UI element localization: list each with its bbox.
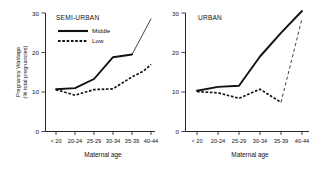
panel-title-urban: URBAN [198, 14, 222, 21]
y-tick-label-20-right: 20 [172, 49, 179, 56]
y-tick-label-10-left: 10 [32, 88, 39, 95]
legend-label-middle: Middle [92, 27, 111, 34]
y-tick-label-30-left: 30 [32, 10, 39, 17]
y-axis-title-line1-left: Pregnancy Wastage [15, 47, 21, 97]
y-tick-label-0-right: 0 [176, 128, 180, 135]
y-tick-label-10-right: 10 [172, 88, 179, 95]
series-middle-semi-urban [56, 55, 132, 90]
x-tick-label-3-right: 30-34 [253, 138, 267, 144]
x-axis-title-left: Maternal age [84, 151, 122, 159]
x-tick-label-0-right: < 20 [191, 138, 202, 144]
panel-semi-urban: 0 10 20 30 < 20 20-24 25-29 30-34 35-39 … [0, 0, 162, 171]
series-middle-urban [197, 11, 302, 91]
y-axis-title-line2-left: (% total pregnancies) [22, 45, 28, 98]
x-tick-label-5-left: 40-44 [144, 138, 158, 144]
y-tick-label-30-right: 30 [172, 10, 179, 17]
x-tick-label-4-left: 35-39 [125, 138, 139, 144]
x-tick-label-4-right: 35-39 [274, 138, 288, 144]
x-tick-label-2-left: 25-29 [87, 138, 101, 144]
plot-area-urban: 0 10 20 30 < 20 20-24 25-29 30-34 35-39 … [163, 0, 325, 171]
x-tick-label-2-right: 25-29 [232, 138, 246, 144]
plot-area-semi-urban: 0 10 20 30 < 20 20-24 25-29 30-34 35-39 … [0, 0, 162, 171]
panel-title-semi-urban: SEMI-URBAN [56, 14, 99, 21]
series-middle-semi-urban-extension [132, 19, 151, 55]
y-tick-label-20-left: 20 [32, 49, 39, 56]
y-axis-title-left: Pregnancy Wastage (% total pregnancies) [15, 45, 28, 98]
x-tick-label-5-right: 40-44 [295, 138, 309, 144]
x-tick-label-1-left: 20-24 [68, 138, 82, 144]
x-tick-label-3-left: 30-34 [106, 138, 120, 144]
x-tick-label-0-left: < 20 [50, 138, 61, 144]
legend-label-low: Low [92, 37, 104, 44]
x-tick-label-1-right: 20-24 [211, 138, 225, 144]
x-axis-title-right: Maternal age [231, 151, 269, 159]
series-low-urban-extension [281, 19, 302, 102]
panel-urban: 0 10 20 30 < 20 20-24 25-29 30-34 35-39 … [163, 0, 325, 171]
y-tick-label-0-left: 0 [36, 128, 40, 135]
series-low-urban [197, 89, 281, 102]
figure-two-panel-line-charts: 0 10 20 30 < 20 20-24 25-29 30-34 35-39 … [0, 0, 325, 171]
